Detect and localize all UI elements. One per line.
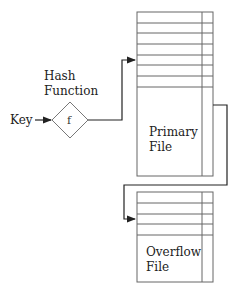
overflow-file-label-line1: Overflow [146,245,202,259]
primary-file-label-line1: Primary [149,125,198,139]
primary-file: Primary File [137,12,213,176]
hash-file-diagram: Key Hash Function f Primary File Overflo… [0,0,240,295]
hash-label-line2: Function [44,84,98,98]
key-label: Key [10,113,33,127]
overflow-file: Overflow File [137,192,213,282]
primary-file-label-line2: File [149,140,172,154]
hash-label-line1: Hash [44,69,76,83]
overflow-file-label-line2: File [146,260,169,274]
